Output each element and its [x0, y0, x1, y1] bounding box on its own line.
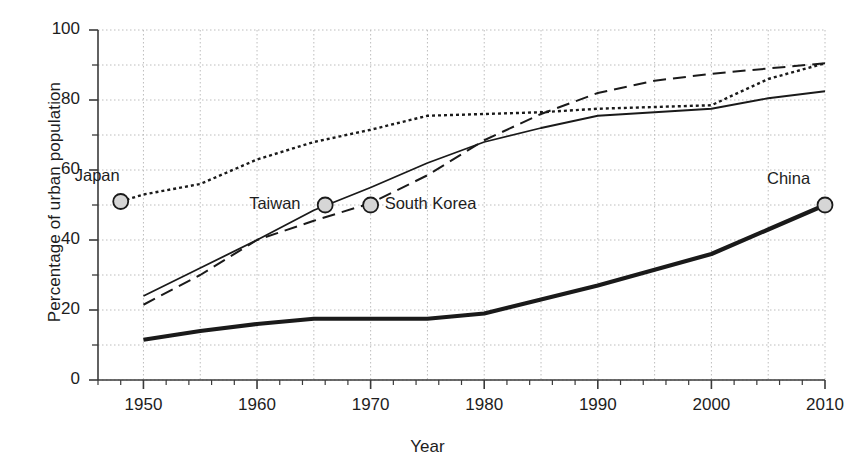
series-marker-japan[interactable] [113, 194, 128, 209]
chart-figure: Percentage of urban population Year 0204… [0, 0, 855, 475]
y-axis-tick-label: 20 [20, 299, 80, 319]
x-axis-tick-label: 1960 [222, 395, 292, 415]
series-marker-taiwan[interactable] [318, 198, 333, 213]
series-label-south-korea: South Korea [385, 194, 477, 213]
y-axis-tick-label: 80 [20, 89, 80, 109]
x-axis-tick-label: 1990 [563, 395, 633, 415]
y-axis-tick-label: 60 [20, 159, 80, 179]
series-line-japan [121, 63, 825, 201]
x-axis-tick-label: 2000 [676, 395, 746, 415]
series-marker-south-korea[interactable] [363, 198, 378, 213]
y-axis-tick-label: 40 [20, 229, 80, 249]
series-line-china [143, 205, 825, 340]
x-axis-tick-label: 1970 [336, 395, 406, 415]
y-axis-tick-label: 100 [20, 19, 80, 39]
series-label-china: China [767, 169, 810, 188]
x-axis-tick-label: 1980 [449, 395, 519, 415]
x-axis-tick-label: 1950 [108, 395, 178, 415]
x-axis-title: Year [0, 437, 855, 457]
series-label-taiwan: Taiwan [249, 194, 300, 213]
series-line-taiwan [143, 91, 825, 296]
y-axis-tick-label: 0 [20, 369, 80, 389]
x-axis-tick-label: 2010 [790, 395, 855, 415]
series-marker-china[interactable] [818, 198, 833, 213]
series-label-japan: Japan [75, 166, 120, 185]
